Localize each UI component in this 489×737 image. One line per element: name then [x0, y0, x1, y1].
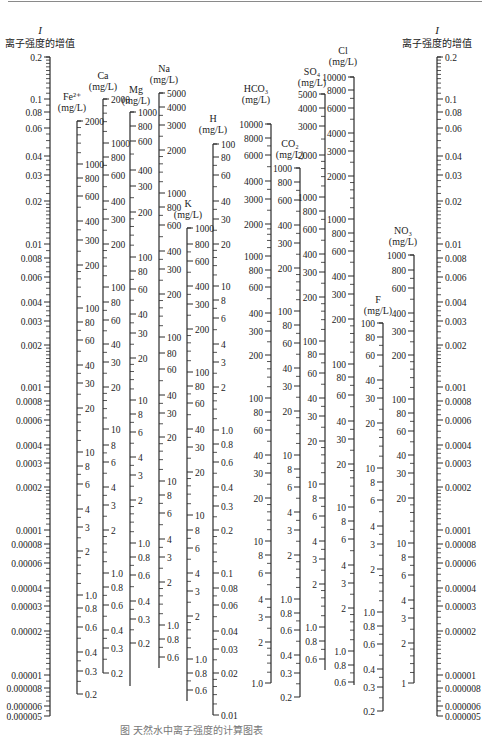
tick-label: 0.01 [25, 240, 42, 250]
tick-label: 80 [397, 409, 407, 419]
tick-label: 800 [303, 207, 318, 217]
tick-label: 30 [366, 394, 376, 404]
tick-label: 300 [85, 236, 100, 246]
axis-title: SO₄ [304, 66, 321, 77]
tick-label: 0.003 [445, 317, 467, 327]
tick-label: 4000 [244, 177, 263, 187]
tick-label: 0.8 [305, 637, 317, 647]
tick-label: 0.3 [138, 615, 150, 625]
axis-k: 1000800600400300200100806040302010864321… [187, 224, 214, 702]
tick-label: 20 [254, 494, 264, 504]
tick-label: 0.003 [21, 317, 43, 327]
tick-label: 4 [401, 596, 406, 606]
tick-label: 80 [337, 373, 347, 383]
tick-label: 800 [332, 229, 347, 239]
tick-label: 600 [392, 284, 407, 294]
tick-label: 30 [138, 329, 148, 339]
tick-label: 0.03 [25, 171, 42, 181]
tick-label: 6 [167, 509, 172, 519]
tick-label: 600 [303, 225, 318, 235]
tick-label: 0.4 [85, 648, 97, 658]
tick-label: 6 [341, 535, 346, 545]
axis-fe: 2000100080060040030020010080604030201086… [77, 117, 104, 700]
tick-label: 0.0008 [445, 397, 471, 407]
tick-label: 1000 [273, 164, 292, 174]
tick-label: 100 [278, 307, 293, 317]
tick-label: 0.01 [445, 240, 462, 250]
tick-label: 10 [254, 537, 264, 547]
axis-co2: 1000800600400300200100806040302010864321… [273, 164, 300, 703]
tick-label: 0.6 [195, 686, 207, 696]
tick-label: 0.6 [363, 640, 375, 650]
tick-label: 80 [254, 408, 264, 418]
tick-label: 0.004 [445, 298, 467, 308]
tick-label: 10 [167, 477, 177, 487]
tick-label: 2 [287, 551, 292, 561]
tick-label: 0.001 [445, 383, 467, 393]
tick-label: 80 [85, 318, 95, 328]
tick-label: 0.8 [280, 609, 292, 619]
tick-label: 800 [85, 174, 100, 184]
tick-label: 60 [283, 339, 293, 349]
tick-label: 40 [337, 417, 347, 427]
tick-label: 8 [138, 410, 143, 420]
tick-label: 100 [195, 368, 210, 378]
tick-label: 0.2 [280, 693, 292, 703]
tick-label: 30 [397, 469, 407, 479]
tick-label: 300 [138, 182, 153, 192]
tick-label: 400 [249, 309, 264, 319]
axis-unit: (mg/L) [389, 236, 417, 248]
axis-h: 100806040302010864321.00.80.60.40.30.20.… [213, 140, 238, 721]
tick-label: 2000 [167, 146, 186, 156]
axis-title: NO₃ [394, 225, 412, 236]
tick-label: 2 [258, 638, 263, 648]
tick-label: 10 [366, 464, 376, 474]
tick-label: 0.1 [221, 569, 233, 579]
tick-label: 0.0001 [445, 526, 471, 536]
tick-label: 3000 [167, 121, 186, 131]
tick-label: 400 [138, 166, 153, 176]
tick-label: 60 [111, 316, 121, 326]
tick-label: 40 [254, 451, 264, 461]
tick-label: 30 [85, 379, 95, 389]
tick-label: 1000 [244, 252, 263, 262]
axis-title: Mg [129, 84, 143, 95]
tick-label: 1000 [298, 193, 317, 203]
tick-label: 1.0 [334, 647, 346, 657]
tick-label: 40 [195, 425, 205, 435]
tick-label: 600 [249, 283, 264, 293]
axis-header-f: F(mg/L) [364, 294, 392, 317]
tick-label: 3 [401, 614, 406, 624]
tick-label: 4 [341, 561, 346, 571]
tick-label: 40 [397, 451, 407, 461]
tick-label: 0.8 [334, 661, 346, 671]
tick-label: 1000 [138, 108, 157, 118]
tick-label: 30 [337, 435, 347, 445]
tick-label: 0.02 [445, 197, 462, 207]
axis-unit: (mg/L) [329, 56, 357, 68]
tick-label: 100 [167, 333, 182, 343]
tick-label: 10 [308, 480, 318, 490]
axis-unit: (mg/L) [364, 305, 392, 317]
tick-label: 600 [167, 221, 182, 231]
axis-unit: (mg/L) [276, 149, 304, 161]
tick-label: 1000 [327, 215, 346, 225]
tick-label: 600 [195, 257, 210, 267]
tick-label: 0.2 [221, 526, 233, 536]
tick-label: 60 [167, 365, 177, 375]
tick-label: 200 [392, 351, 407, 361]
tick-label: 4 [85, 505, 90, 515]
tick-label: 6 [258, 569, 263, 579]
tick-label: 0.02 [221, 669, 238, 679]
tick-label: 0.000006 [445, 702, 481, 712]
tick-label: 300 [249, 327, 264, 337]
tick-label: 0.4 [280, 651, 292, 661]
tick-label: 0.00002 [445, 627, 476, 637]
tick-label: 6 [111, 458, 116, 468]
tick-label: 80 [111, 298, 121, 308]
tick-label: 4 [287, 508, 292, 518]
tick-label: 4 [258, 595, 263, 605]
axis-unit: (mg/L) [199, 124, 227, 136]
axis-title: CO₂ [281, 138, 298, 149]
tick-label: 3000 [244, 195, 263, 205]
